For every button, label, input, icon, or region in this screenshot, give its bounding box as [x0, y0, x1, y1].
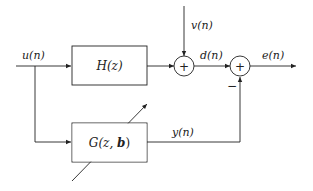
- summing-junction-1: +: [174, 56, 194, 76]
- label-v-n: v(n): [191, 19, 213, 32]
- label-u-n: u(n): [22, 49, 45, 62]
- plus-sign-2: +: [235, 60, 245, 74]
- summing-junction-2: +: [230, 56, 250, 76]
- block-diagram: u(n) H(z) v(n) + d(n) + − e(n) G(z, b) G…: [0, 0, 313, 191]
- label-d-n: d(n): [200, 49, 223, 62]
- model-block-label-front: G(z, b): [89, 136, 130, 150]
- label-e-n: e(n): [262, 49, 284, 62]
- plus-sign-1: +: [179, 60, 189, 74]
- plant-block-label: H(z): [95, 59, 122, 73]
- label-y-n: y(n): [171, 126, 194, 139]
- minus-sign: −: [227, 79, 237, 93]
- plant-block-h: H(z): [72, 46, 147, 85]
- branch-to-model-line: [35, 66, 71, 142]
